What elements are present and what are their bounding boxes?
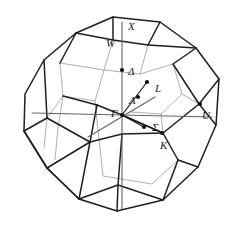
hidden-edge-bottom-d — [44, 118, 47, 148]
edge-front-center-a — [97, 105, 122, 115]
hidden-edge-top-c — [140, 45, 148, 74]
edge-bottom-square-mid — [117, 185, 118, 211]
symmetry-point-label-x: X — [128, 21, 135, 32]
edge-left-upper-a — [44, 60, 47, 118]
hidden-edge-right-a — [161, 64, 182, 114]
face-bottom-square — [79, 185, 163, 200]
edge-right-front-e — [178, 160, 198, 167]
symmetry-point-dot-delta — [120, 68, 124, 72]
hidden-edge-back-left-e — [58, 96, 63, 128]
symmetry-point-label-w: W — [106, 38, 115, 49]
symmetry-point-label-k: K — [160, 140, 167, 151]
symmetry-point-label-l: L — [155, 83, 161, 94]
edge-lower-left-a — [24, 131, 47, 168]
edge-top-square-right — [148, 45, 196, 48]
symmetry-point-dot-l — [145, 80, 149, 84]
symmetry-point-dot-lambda — [136, 95, 140, 99]
symmetry-point-dot-gamma — [120, 113, 124, 117]
hidden-edge-back-left-c — [60, 63, 104, 101]
brillouin-zone-figure: XWΔLΛΓUΣK — [0, 0, 233, 228]
edge-right-front-c — [199, 79, 219, 104]
symmetry-point-dot-k — [160, 131, 164, 135]
edge-right-front-f — [163, 160, 178, 200]
symmetry-point-label-gamma: Γ — [111, 108, 117, 119]
edge-front-left-b — [47, 118, 90, 142]
symmetry-point-dot-sigma — [142, 125, 146, 129]
edge-front-left-a — [24, 118, 47, 131]
symmetry-point-label-delta: Δ — [128, 66, 134, 77]
edge-lower-left-b — [47, 168, 79, 199]
edge-front-left-c — [90, 105, 97, 142]
symmetry-point-label-sigma: Σ — [152, 122, 159, 133]
edge-front-center-d — [122, 133, 163, 134]
edge-front-center-e — [118, 134, 122, 185]
symmetry-point-label-u: U — [202, 110, 210, 121]
symmetry-point-dot-u — [198, 102, 202, 106]
hidden-edge-top-b — [104, 64, 173, 74]
hidden-edge-bottom-c — [55, 128, 58, 160]
symmetry-point-label-lambda: Λ — [129, 95, 136, 106]
edge-right-front-b — [163, 104, 199, 133]
hidden-edge-right-d — [161, 114, 163, 133]
edge-front-left-f — [47, 142, 90, 168]
edge-front-center-c — [90, 134, 122, 142]
hidden-edge-right-c — [131, 112, 161, 114]
face-top-square — [76, 22, 160, 45]
edge-left-upper-b — [60, 33, 76, 63]
edge-front-left-e — [79, 142, 90, 199]
